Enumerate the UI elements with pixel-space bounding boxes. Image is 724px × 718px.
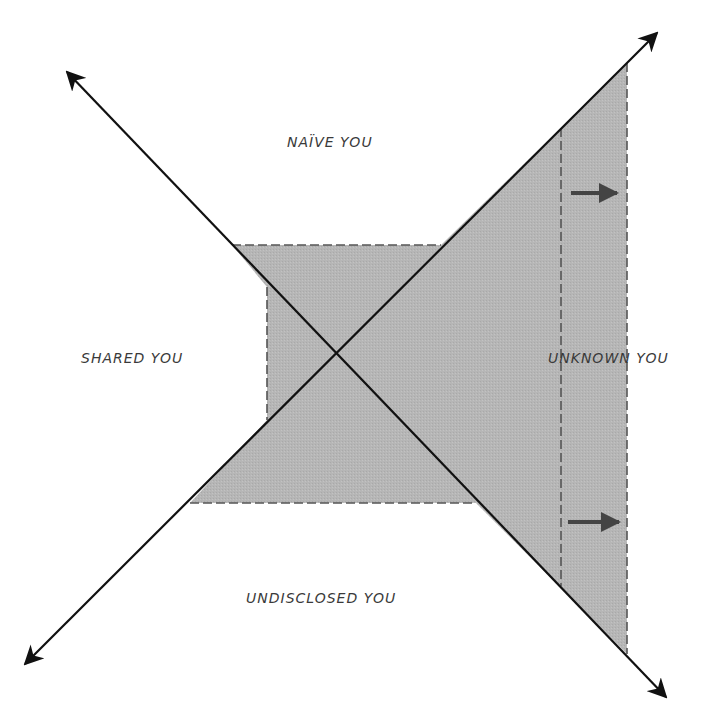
label-undisclosed-you: UNDISCLOSED YOU (246, 590, 396, 606)
label-naive-you: NAÏVE YOU (287, 134, 373, 150)
label-shared-you: SHARED YOU (81, 350, 183, 366)
label-unknown-you: UNKNOWN YOU (548, 350, 669, 366)
